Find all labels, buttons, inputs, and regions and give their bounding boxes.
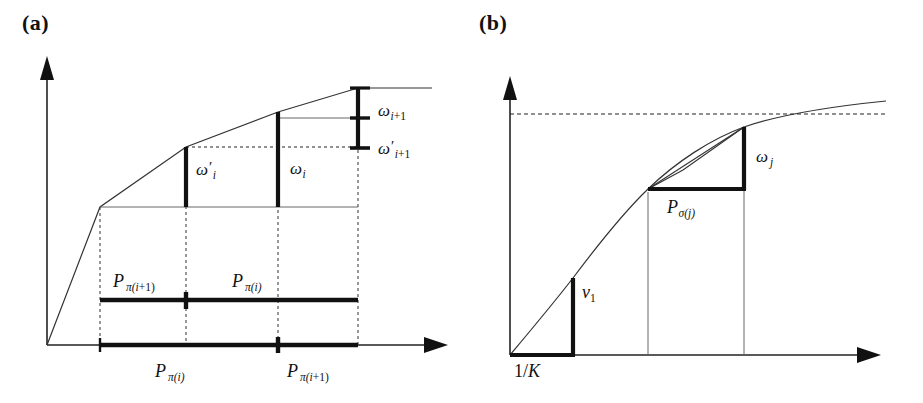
panel-b: (b) [461,0,923,403]
figure-root: (a) [0,0,923,403]
label-one-over-k: 1/K [514,362,540,380]
label-nu-1: v1 [582,283,596,304]
y-axis-a [40,56,54,345]
label-p-pi-i-upper: P π(i) [232,272,262,293]
bar-upper-probability-a [100,292,358,309]
panel-a-plot [0,0,461,403]
label-p-sigma-j: Pσ(j) [667,198,695,219]
label-p-pi-i-plus-1-upper: P π(i+1) [113,272,155,293]
dashed-vertical-guides-a [100,120,358,345]
label-p-pi-i-axis: P π(i) [155,362,185,383]
vertical-drop-lines-b [648,130,744,355]
bracket-omega-i-plus-1 [350,88,370,148]
chords-b [648,127,744,189]
label-omega-j: ω j [756,148,773,168]
concave-curve-b [510,101,886,355]
panel-a: (a) [0,0,461,403]
label-omega-i-plus-1: ωi+1 [378,102,406,122]
y-axis-b [503,76,517,355]
label-omega-prime-i: ω′i [196,160,216,181]
concave-curve-a [47,88,432,345]
label-p-pi-i-plus-1-axis: P π(i+1) [287,362,329,383]
label-omega-prime-i-plus-1: ω′i+1 [378,139,410,160]
bar-lower-probability-a [100,337,358,353]
label-omega-i: ωi [290,160,306,180]
